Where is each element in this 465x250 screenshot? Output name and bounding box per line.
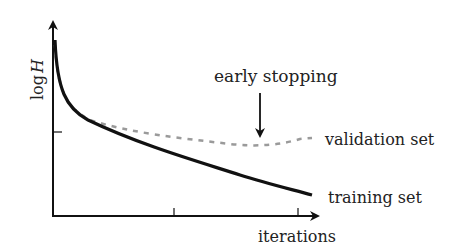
legend-training-label: training set [328, 188, 422, 207]
legend-validation-label: validation set [324, 130, 435, 149]
y-axis-label: logH [28, 58, 47, 100]
training-curve [55, 40, 312, 195]
x-axis-label: iterations [258, 227, 336, 246]
svg-text:logH: logH [28, 58, 47, 100]
early-stopping-label: early stopping [214, 66, 338, 86]
validation-curve [55, 45, 312, 145]
chart-canvas: early stopping validation set training s… [0, 0, 465, 250]
